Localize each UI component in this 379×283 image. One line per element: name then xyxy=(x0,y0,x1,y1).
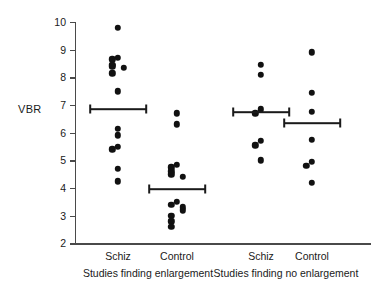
y-tick-label-9: 9 xyxy=(36,45,66,56)
data-point xyxy=(168,171,174,177)
y-tick-3 xyxy=(70,216,75,217)
data-point xyxy=(309,159,315,165)
data-point xyxy=(120,64,126,70)
data-point xyxy=(174,199,180,205)
mean-bar-cap xyxy=(283,119,285,128)
y-tick-label-5: 5 xyxy=(36,155,66,166)
y-tick-label-10: 10 xyxy=(36,17,66,28)
data-point xyxy=(115,178,121,184)
data-point xyxy=(168,201,174,207)
group-label-control-0: Control xyxy=(137,250,217,262)
mean-bar xyxy=(233,111,289,113)
data-point xyxy=(258,62,264,68)
scatter-plot-figure: VBR 2345678910 SchizControlStudies findi… xyxy=(0,0,379,283)
mean-bar xyxy=(149,189,205,191)
y-tick-label-8: 8 xyxy=(36,72,66,83)
mean-bar-cap xyxy=(145,105,147,114)
y-axis-line xyxy=(75,22,76,244)
data-point xyxy=(115,132,121,138)
data-point xyxy=(115,143,121,149)
mean-bar-cap xyxy=(288,107,290,116)
data-point xyxy=(309,136,315,142)
data-point xyxy=(303,163,309,169)
mean-bar xyxy=(90,108,146,110)
mean-bar-cap xyxy=(339,119,341,128)
data-point xyxy=(115,24,121,30)
y-tick-10 xyxy=(70,22,75,23)
data-point xyxy=(309,179,315,185)
data-point xyxy=(258,138,264,144)
x-axis-line xyxy=(75,243,371,244)
y-tick-8 xyxy=(70,77,75,78)
mean-bar-cap xyxy=(148,185,150,194)
y-tick-5 xyxy=(70,160,75,161)
mean-bar-cap xyxy=(232,107,234,116)
data-point xyxy=(115,125,121,131)
y-tick-4 xyxy=(70,188,75,189)
data-point xyxy=(179,207,185,213)
data-point xyxy=(174,161,180,167)
data-point xyxy=(258,71,264,77)
y-tick-9 xyxy=(70,50,75,51)
y-tick-label-2: 2 xyxy=(36,238,66,249)
y-tick-label-7: 7 xyxy=(36,100,66,111)
data-point xyxy=(174,121,180,127)
data-point xyxy=(179,174,185,180)
mean-bar-cap xyxy=(89,105,91,114)
y-tick-label-3: 3 xyxy=(36,211,66,222)
y-tick-6 xyxy=(70,133,75,134)
y-tick-7 xyxy=(70,105,75,106)
data-point xyxy=(309,89,315,95)
y-tick-2 xyxy=(70,243,75,244)
data-point xyxy=(252,142,258,148)
y-tick-label-6: 6 xyxy=(36,128,66,139)
data-point xyxy=(109,63,115,69)
data-point xyxy=(258,157,264,163)
data-point xyxy=(115,88,121,94)
data-point xyxy=(109,70,115,76)
data-point xyxy=(309,49,315,55)
mean-bar xyxy=(284,122,340,124)
mean-bar-cap xyxy=(204,185,206,194)
group-label-control-1: Control xyxy=(272,250,352,262)
y-tick-label-4: 4 xyxy=(36,183,66,194)
data-point xyxy=(168,224,174,230)
data-point xyxy=(115,55,121,61)
data-point xyxy=(174,110,180,116)
data-point xyxy=(115,165,121,171)
data-point xyxy=(109,146,115,152)
panel-label-1: Studies finding no enlargement xyxy=(176,267,379,279)
data-point xyxy=(309,109,315,115)
